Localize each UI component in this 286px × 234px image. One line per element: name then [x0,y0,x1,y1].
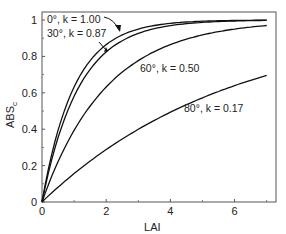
y-tick-label: 0.6 [22,87,37,99]
x-axis-label: LAI [144,221,161,233]
x-tick-label: 2 [103,205,109,217]
y-tick-label: 0.8 [22,50,37,62]
x-tick-label: 4 [167,205,173,217]
y-tick-label: 0 [31,196,37,208]
y-axis-label: ABSc [4,102,19,128]
annotation-k017: 80°, k = 0.17 [184,102,244,114]
annotation-k050: 60°, k = 0.50 [140,62,200,74]
y-tick-label: 1 [31,14,37,26]
x-tick-label: 6 [232,205,238,217]
chart: 024600.20.40.60.81LAIABSc0°, k = 1.0030°… [0,0,286,234]
y-tick-label: 0.4 [22,123,37,135]
x-tick-label: 0 [39,205,45,217]
arrowhead-k100 [115,25,121,32]
chart-svg: 024600.20.40.60.81LAIABSc0°, k = 1.0030°… [0,0,286,234]
annotation-k087: 30°, k = 0.87 [47,27,107,39]
annotation-k100: 0°, k = 1.00 [47,13,101,25]
y-tick-label: 0.2 [22,160,37,172]
